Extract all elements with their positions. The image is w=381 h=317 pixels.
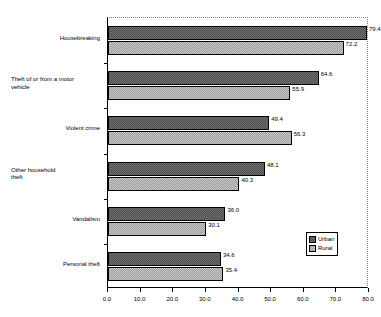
category-label: Violent crime	[5, 125, 103, 133]
bar-value-label: 56.3	[294, 131, 306, 138]
x-axis-tick-label: 70.0	[330, 296, 342, 303]
x-axis-tick	[107, 288, 108, 292]
category-tick	[104, 199, 108, 200]
bar-urban	[108, 207, 225, 221]
x-axis-tick	[335, 288, 336, 292]
x-axis-tick	[205, 288, 206, 292]
category-label-line: vehicle	[11, 84, 103, 92]
x-axis-tick-label: 10.0	[134, 296, 146, 303]
category-label: Housebreaking	[5, 35, 103, 43]
bar-group: 48.140.3	[108, 154, 367, 199]
bar-urban	[108, 26, 367, 40]
category-label: Theft of or from a motorvehicle	[5, 76, 103, 91]
bar-rural	[108, 41, 344, 55]
category-label-line: Vandalism	[5, 216, 100, 224]
x-axis: 0.010.020.030.040.050.060.070.080.0	[107, 288, 368, 314]
category-label: Other householdtheft	[5, 167, 103, 182]
bar-urban	[108, 162, 265, 176]
bar-value-label: 30.1	[208, 222, 220, 229]
category-label: Vandalism	[5, 216, 103, 224]
x-axis-tick-label: 20.0	[166, 296, 178, 303]
bar-group: 49.456.3	[108, 108, 367, 153]
x-axis-tick-label: 60.0	[297, 296, 309, 303]
bar-urban	[108, 116, 269, 130]
x-axis-tick	[140, 288, 141, 292]
bar-rural	[108, 86, 290, 100]
category-label-line: Other household	[11, 167, 103, 175]
bar-value-label: 49.4	[271, 116, 283, 123]
bar-rural	[108, 222, 206, 236]
bar-group: 79.472.2	[108, 18, 367, 63]
category-label-line: Theft of or from a motor	[11, 76, 103, 84]
legend-swatch-urban	[309, 236, 316, 243]
category-label-line: Violent crime	[5, 125, 100, 133]
bar-value-label: 40.3	[241, 177, 253, 184]
x-axis-tick	[368, 288, 369, 292]
bar-value-label: 36.0	[227, 207, 239, 214]
bar-rural	[108, 267, 223, 281]
category-tick	[104, 154, 108, 155]
legend-swatch-rural	[309, 245, 316, 252]
bar-rural	[108, 131, 292, 145]
bar-group: 64.655.9	[108, 63, 367, 108]
x-axis-tick	[172, 288, 173, 292]
bar-value-label: 34.6	[223, 252, 235, 259]
bar-value-label: 55.9	[292, 86, 304, 93]
legend-entry: Rural	[309, 244, 334, 253]
category-label: Personal theft	[5, 261, 103, 269]
category-tick	[104, 244, 108, 245]
x-axis-tick	[238, 288, 239, 292]
bar-value-label: 72.2	[346, 41, 358, 48]
legend-label: Rural	[318, 245, 332, 252]
bar-rural	[108, 177, 239, 191]
category-tick	[104, 108, 108, 109]
x-axis-tick-label: 50.0	[264, 296, 276, 303]
category-tick	[104, 63, 108, 64]
bar-urban	[108, 252, 221, 266]
bar-value-label: 48.1	[267, 162, 279, 169]
x-axis-tick-label: 30.0	[199, 296, 211, 303]
category-label-line: theft	[11, 174, 103, 182]
bar-urban	[108, 71, 319, 85]
chart-legend: UrbanRural	[306, 232, 338, 256]
legend-entry: Urban	[309, 235, 334, 244]
legend-label: Urban	[318, 236, 334, 243]
x-axis-tick-label: 40.0	[232, 296, 244, 303]
bar-value-label: 35.4	[225, 267, 237, 274]
x-axis-tick	[303, 288, 304, 292]
category-label-line: Housebreaking	[5, 35, 100, 43]
x-axis-tick	[270, 288, 271, 292]
bar-value-label: 79.4	[369, 26, 381, 33]
x-axis-tick-label: 80.0	[362, 296, 374, 303]
category-label-line: Personal theft	[5, 261, 100, 269]
bar-value-label: 64.6	[321, 71, 333, 78]
x-axis-tick-label: 0.0	[103, 296, 111, 303]
